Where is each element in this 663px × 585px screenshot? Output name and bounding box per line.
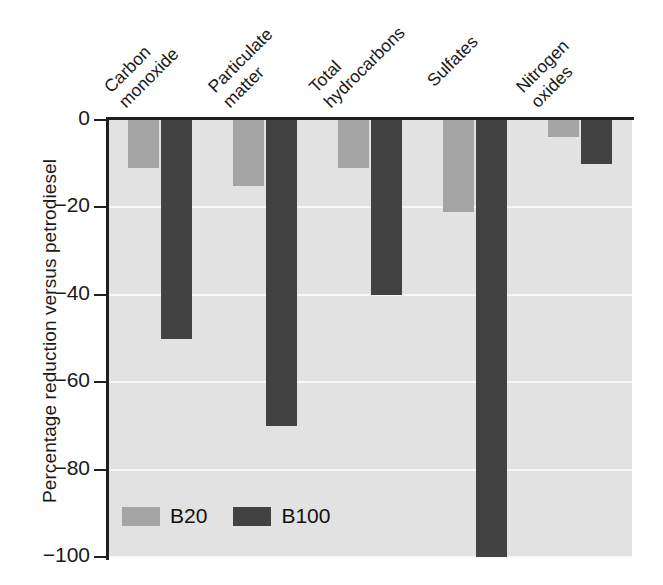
- gridline: [108, 469, 632, 471]
- y-tick-label: 0: [16, 106, 90, 130]
- gridline: [108, 556, 632, 558]
- legend-label: B100: [281, 504, 330, 528]
- gridline: [108, 381, 632, 383]
- legend-label: B20: [170, 504, 207, 528]
- bar-b20-carbon-monoxide: [128, 120, 159, 168]
- plot-area: [108, 120, 632, 557]
- x-axis-label-sulfates: Sulfates: [423, 32, 483, 92]
- x-axis-label-particulate-matter: Particulatematter: [204, 24, 293, 113]
- y-tick-label: −40: [16, 281, 90, 305]
- legend-swatch-b20: [122, 507, 160, 526]
- bar-b20-nitrogen-oxides: [548, 120, 579, 137]
- bar-b100-carbon-monoxide: [161, 120, 192, 339]
- y-tick-label: −20: [16, 193, 90, 217]
- chart-legend: B20B100: [122, 504, 330, 528]
- bar-b20-particulate-matter: [233, 120, 264, 186]
- zero-axis-line: [106, 117, 634, 120]
- bar-b20-sulfates: [443, 120, 474, 212]
- bar-b100-total-hydrocarbons: [371, 120, 402, 295]
- x-axis-label-total-hydrocarbons: Totalhydrocarbons: [305, 8, 410, 113]
- bar-b20-total-hydrocarbons: [338, 120, 369, 168]
- bar-b100-particulate-matter: [266, 120, 297, 426]
- legend-entry-b100: B100: [233, 504, 330, 528]
- x-axis-label-nitrogen-oxides: Nitrogenoxides: [512, 36, 589, 113]
- y-axis-line: [106, 117, 109, 560]
- x-axis-label-line1: Sulfates: [423, 32, 482, 91]
- y-tick-label: −100: [16, 543, 90, 567]
- legend-entry-b20: B20: [122, 504, 207, 528]
- y-tick-label: −80: [16, 456, 90, 480]
- bar-b100-nitrogen-oxides: [581, 120, 612, 164]
- bar-b100-sulfates: [476, 120, 507, 557]
- legend-swatch-b100: [233, 507, 271, 526]
- bar-chart: Percentage reduction versus petrodiesel …: [0, 0, 663, 585]
- x-axis-label-carbon-monoxide: Carbonmonoxide: [100, 29, 184, 113]
- y-tick-label: −60: [16, 368, 90, 392]
